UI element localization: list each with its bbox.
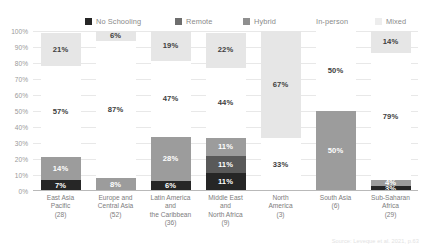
x-axis-category-count: (28) (34, 211, 87, 219)
x-axis-category-line: and (144, 202, 197, 210)
bar-segment[interactable]: 19% (151, 31, 191, 61)
bar-value-label: 7% (55, 182, 66, 190)
bar-value-label: 21% (53, 46, 69, 54)
y-axis-tick-label: 100% (11, 28, 28, 35)
bar-segment[interactable]: 33% (261, 138, 301, 191)
x-axis-category-line: Central Asia (89, 202, 142, 210)
x-axis-line (33, 190, 418, 191)
x-axis-category-count: (3) (254, 211, 307, 219)
stacked-bar[interactable]: 33%67% (261, 31, 301, 191)
legend-item-in-person[interactable]: In-person (305, 17, 348, 26)
bar-value-label: 6% (165, 182, 176, 190)
legend-item-hybrid[interactable]: Hybrid (243, 17, 276, 26)
x-axis-category-line: the Caribbean (144, 211, 197, 219)
x-axis-category-label: Latin Americaandthe Caribbean(36) (143, 194, 198, 236)
bar-segment[interactable]: 47% (151, 61, 191, 136)
y-axis-tick-label: 0% (18, 188, 28, 195)
bar-value-label: 11% (218, 161, 233, 169)
x-axis-category-label: NorthAmerica(3) (253, 194, 308, 236)
x-axis-category-count: (36) (144, 219, 197, 227)
source-note: Source: Leveque et al. 2021, p.63 (332, 238, 419, 244)
x-axis-category-count: (9) (199, 219, 252, 227)
bar-value-label: 67% (273, 81, 289, 89)
x-axis-category-line: Latin America (144, 194, 197, 202)
bar-value-label: 50% (328, 147, 344, 155)
bar-segment[interactable]: 28% (151, 137, 191, 182)
x-axis-category-line: South Asia (309, 194, 362, 202)
bar-value-label: 22% (218, 46, 234, 54)
x-axis-category-count: (52) (89, 211, 142, 219)
legend-item-remote[interactable]: Remote (175, 17, 212, 26)
y-axis-tick-label: 80% (15, 60, 28, 67)
plot-area: 7%14%57%21%8%87%6%6%28%47%19%11%11%11%44… (33, 31, 418, 191)
bar-segment[interactable]: 87% (96, 41, 136, 179)
bar-group: 7%14%57%21% (33, 31, 88, 191)
bar-segment[interactable]: 11% (206, 138, 246, 156)
y-axis-tick-label: 50% (15, 108, 28, 115)
bar-segment[interactable]: 67% (261, 31, 301, 138)
bar-value-label: 14% (53, 165, 69, 173)
y-axis-labels: 100%90%80%70%60%50%40%30%20%10%0% (0, 31, 31, 191)
bar-group: 8%87%6% (88, 31, 143, 191)
bar-segment[interactable]: 50% (316, 111, 356, 191)
bar-value-label: 11% (218, 143, 233, 151)
x-axis-category-label: Sub-SaharanAfrica(29) (363, 194, 418, 236)
bar-value-label: 44% (218, 99, 234, 107)
x-axis-category-line: Europe and (89, 194, 142, 202)
bar-segment[interactable]: 14% (41, 157, 81, 179)
bar-segment[interactable]: 6% (96, 31, 136, 41)
bar-segment[interactable]: 14% (371, 31, 411, 53)
legend-item-mixed[interactable]: Mixed (375, 17, 406, 26)
x-axis-category-count: (6) (309, 202, 362, 210)
bar-value-label: 87% (108, 106, 124, 114)
y-axis-tick-label: 20% (15, 156, 28, 163)
bar-segment[interactable]: 79% (371, 53, 411, 179)
legend-swatch-icon (243, 18, 250, 25)
bar-value-label: 57% (53, 108, 69, 116)
x-axis-labels: East AsiaPacific(28)Europe andCentral As… (33, 194, 418, 236)
legend-label: In-person (316, 17, 348, 26)
bar-segment[interactable]: 57% (41, 66, 81, 157)
x-axis-category-line: Sub-Saharan (364, 194, 417, 202)
bar-value-label: 14% (383, 38, 399, 46)
bar-segment[interactable]: 11% (206, 156, 246, 174)
stacked-bar[interactable]: 11%11%11%44%22% (206, 31, 246, 191)
x-axis-category-label: Europe andCentral Asia(52) (88, 194, 143, 236)
bar-value-label: 79% (383, 113, 399, 121)
bar-value-label: 6% (110, 32, 121, 40)
bar-segment[interactable]: 44% (206, 68, 246, 138)
bar-segment[interactable]: 21% (41, 33, 81, 67)
x-axis-category-line: America (254, 202, 307, 210)
bar-value-label: 47% (163, 95, 179, 103)
legend-swatch-icon (375, 18, 382, 25)
bar-segment[interactable]: 50% (316, 31, 356, 111)
legend-swatch-icon (305, 18, 312, 25)
x-axis-category-line: Middle East (199, 194, 252, 202)
legend-swatch-icon (175, 18, 182, 25)
x-axis-category-line: and (199, 202, 252, 210)
bar-segment[interactable]: 11% (206, 173, 246, 191)
bar-value-label: 11% (218, 178, 233, 186)
chart-legend: No SchoolingRemoteHybridIn-personMixed (0, 14, 425, 28)
legend-label: No Schooling (96, 17, 141, 26)
x-axis-category-line: North Africa (199, 211, 252, 219)
stacked-bar[interactable]: 7%14%57%21% (41, 31, 81, 191)
y-axis-tick-label: 30% (15, 140, 28, 147)
bar-segment[interactable]: 22% (206, 33, 246, 68)
bar-group: 50%50% (308, 31, 363, 191)
stacked-bar[interactable]: 3%4%79%14% (371, 31, 411, 191)
legend-item-no-schooling[interactable]: No Schooling (85, 17, 141, 26)
legend-label: Mixed (386, 17, 406, 26)
x-axis-category-label: South Asia(6) (308, 194, 363, 236)
x-axis-category-line: East Asia (34, 194, 87, 202)
bar-value-label: 19% (163, 42, 179, 50)
stacked-bar[interactable]: 6%28%47%19% (151, 31, 191, 191)
x-axis-category-line: North (254, 194, 307, 202)
legend-swatch-icon (85, 18, 92, 25)
stacked-bar[interactable]: 8%87%6% (96, 31, 136, 191)
bar-value-label: 8% (110, 181, 121, 189)
stacked-bar[interactable]: 50%50% (316, 31, 356, 191)
x-axis-category-label: Middle EastandNorth Africa(9) (198, 194, 253, 236)
y-axis-tick-label: 10% (15, 172, 28, 179)
y-axis-tick-label: 90% (15, 44, 28, 51)
